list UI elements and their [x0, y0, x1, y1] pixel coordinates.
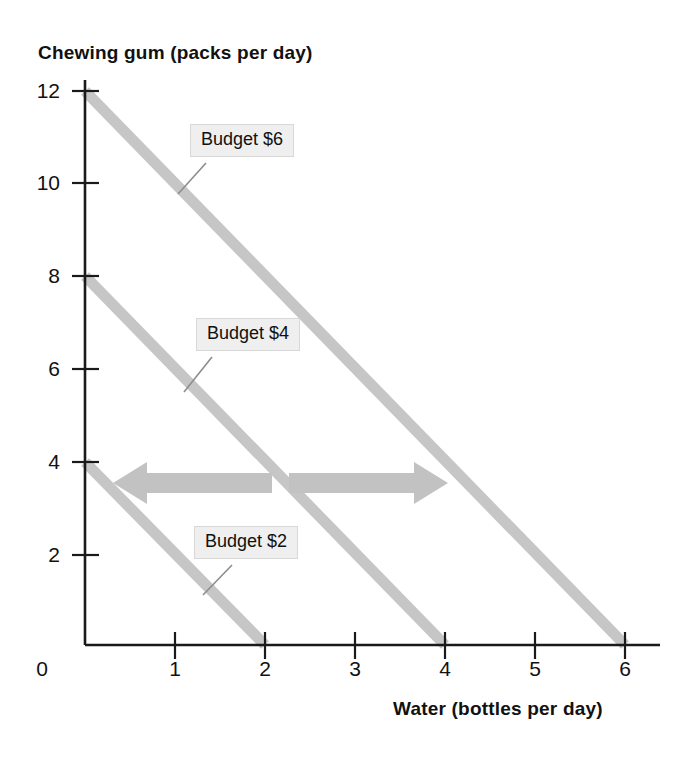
budget-label-6: Budget $6: [190, 124, 294, 157]
leader-line-budget-6: [178, 163, 206, 194]
plot-canvas: [0, 0, 692, 759]
budget-label-2: Budget $2: [194, 526, 298, 559]
arrow-right-icon: [289, 462, 448, 504]
budget-line-chart: Chewing gum (packs per day) Water (bottl…: [0, 0, 692, 759]
budget-lines: [85, 91, 625, 645]
arrow-left-icon: [113, 462, 272, 504]
budget-line-6: [85, 91, 625, 645]
budget-label-4: Budget $4: [196, 318, 300, 351]
